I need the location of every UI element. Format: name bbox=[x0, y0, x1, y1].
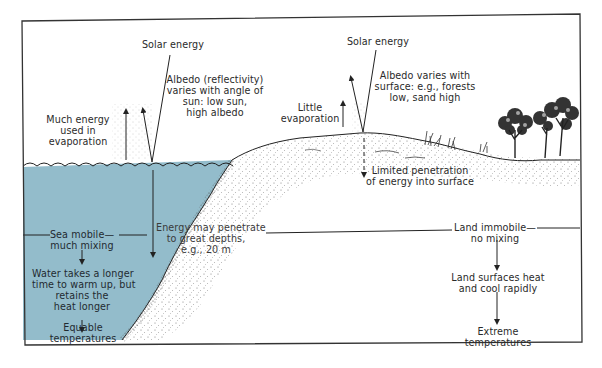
sea-solar-energy-label: Solar energy bbox=[136, 39, 210, 50]
sea-evaporation-steam bbox=[112, 104, 152, 160]
land-penetration-label: Limited penetration of energy into surfa… bbox=[365, 165, 475, 187]
land-albedo-label: Albedo varies with surface: e.g., forest… bbox=[370, 70, 480, 103]
land-result-label: Extreme temperatures bbox=[460, 326, 536, 348]
sea-evaporation-label: Much energy used in evaporation bbox=[45, 114, 111, 147]
sea-mixing-label: Sea mobile— much mixing bbox=[44, 229, 120, 251]
land-sea-heating-diagram: Solar energy Albedo (reflectivity) varie… bbox=[0, 0, 602, 368]
land-solar-energy-label: Solar energy bbox=[341, 36, 415, 47]
land-heating-label: Land surfaces heat and cool rapidly bbox=[448, 272, 548, 294]
sea-penetration-label: Energy may penetrate to great depths, e.… bbox=[156, 222, 256, 255]
sea-result-label: Equable temperatures bbox=[46, 322, 120, 344]
diagram-artwork bbox=[0, 0, 602, 368]
land-evaporation-label: Little evaporation bbox=[280, 102, 340, 124]
land-mixing-label: Land immobile— no mixing bbox=[452, 222, 538, 244]
sea-warming-label: Water takes a longer time to warm up, bu… bbox=[32, 268, 132, 312]
sea-albedo-label: Albedo (reflectivity) varies with angle … bbox=[163, 74, 267, 118]
trees bbox=[498, 97, 579, 158]
